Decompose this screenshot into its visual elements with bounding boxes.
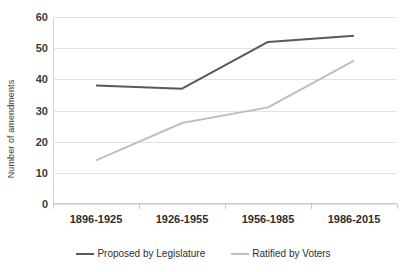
series-lines — [53, 17, 397, 204]
y-axis-tick-label: 30 — [22, 105, 48, 116]
y-axis-title: Number of amendments — [2, 54, 20, 204]
x-axis-tick-labels: 1896-19251926-19551956-19851986-2015 — [53, 212, 397, 228]
y-axis-tick-labels: 0102030405060 — [22, 0, 48, 272]
x-axis-tick-label: 1956-1985 — [242, 212, 295, 226]
x-axis-tick — [139, 204, 140, 209]
y-axis-tick-label: 0 — [22, 199, 48, 210]
x-axis-tick — [225, 204, 226, 209]
y-axis-title-text: Number of amendments — [6, 80, 16, 179]
legend-item[interactable]: Proposed by Legislature — [76, 248, 205, 260]
chart-legend: Proposed by LegislatureRatified by Voter… — [0, 248, 407, 260]
legend-label: Ratified by Voters — [252, 248, 330, 260]
legend-line-icon — [76, 253, 94, 255]
plot-area — [53, 17, 397, 204]
y-axis-tick-label: 50 — [22, 43, 48, 54]
x-axis-tick — [397, 204, 398, 209]
legend-item[interactable]: Ratified by Voters — [231, 248, 330, 260]
series-line — [96, 61, 354, 161]
y-axis-tick-label: 60 — [22, 12, 48, 23]
x-axis-tick-label: 1926-1955 — [156, 212, 209, 226]
y-axis-tick-label: 40 — [22, 74, 48, 85]
y-axis-tick-label: 10 — [22, 167, 48, 178]
line-chart: Number of amendments 0102030405060 1896-… — [0, 0, 407, 272]
legend-label: Proposed by Legislature — [97, 248, 205, 260]
x-axis-tick-label: 1986-2015 — [328, 212, 381, 226]
x-axis-tick — [53, 204, 54, 209]
y-axis-tick-label: 20 — [22, 136, 48, 147]
x-axis-tick-label: 1896-1925 — [70, 212, 123, 226]
x-axis-tick — [311, 204, 312, 209]
legend-line-icon — [231, 253, 249, 255]
